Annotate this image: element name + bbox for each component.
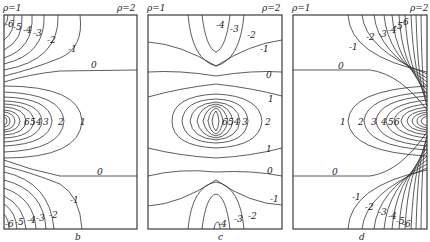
contour-label: 1	[266, 144, 272, 154]
contour-label: -3	[378, 207, 387, 217]
contour-label: 0	[338, 61, 344, 71]
contour-label: 2	[357, 117, 364, 127]
contour-label: -1	[349, 42, 358, 52]
panel-c-rho-left: ρ=1	[146, 3, 166, 13]
contour-label: -1	[270, 194, 279, 204]
panel-b: ρ=1 ρ=2 -6 -5 -4 -	[2, 3, 137, 242]
contour-label: 2	[57, 117, 64, 127]
contour-label: -4	[218, 219, 227, 229]
contour-label: -4	[216, 20, 225, 30]
contour-label: 1	[340, 117, 346, 127]
contour-label: -1	[352, 192, 361, 202]
contour-label: 0	[266, 70, 272, 80]
contour-label: 0	[97, 167, 103, 177]
contour-label: -3	[230, 24, 239, 34]
contour-label: 1	[268, 94, 274, 104]
contour-label: -6	[5, 219, 14, 229]
contour-label: -1	[68, 44, 77, 54]
contour-label: -2	[247, 30, 256, 40]
contour-label: -4	[27, 215, 36, 225]
contour-label: -2	[366, 32, 375, 42]
contour-label: -1	[260, 44, 269, 54]
contour-label: 1	[80, 117, 86, 127]
contour-label: -3	[378, 29, 387, 39]
contour-label: 0	[332, 167, 338, 177]
panel-d: ρ=1 ρ=2	[291, 3, 429, 242]
contour-label: -2	[49, 210, 58, 220]
contour-label: -6	[402, 219, 411, 229]
contour-label: -2	[47, 35, 56, 45]
panel-d-rho-right: ρ=2	[409, 3, 429, 13]
contour-label: -4	[23, 25, 32, 35]
contour-label: -2	[248, 211, 257, 221]
contour-label: 0	[91, 60, 97, 70]
contour-label: -3	[234, 214, 243, 224]
contour-label: -1	[70, 195, 79, 205]
contour-label: 4	[35, 117, 42, 127]
contour-label: -6	[400, 17, 409, 27]
contour-label: 0	[267, 166, 273, 176]
panel-d-rho-left: ρ=1	[291, 3, 311, 13]
contour-label: -3	[36, 213, 45, 223]
contour-label: -3	[33, 28, 42, 38]
panel-b-rho-right: ρ=2	[116, 3, 136, 13]
panel-c: ρ=1 ρ=2 -4 -3 -2 -1 0 1 6 5	[146, 3, 282, 242]
contour-label: 4	[233, 117, 240, 127]
contour-label: 3	[43, 117, 49, 127]
contour-label: 6	[394, 117, 400, 127]
panel-c-caption: c	[218, 232, 223, 242]
contour-label: -5	[15, 217, 24, 227]
panel-c-rho-right: ρ=2	[261, 3, 281, 13]
panel-d-caption: d	[359, 232, 365, 242]
contour-label: 3	[242, 117, 248, 127]
contour-label: 2	[264, 117, 271, 127]
contour-figure: ρ=1 ρ=2 -6 -5 -4 -	[0, 0, 430, 242]
panel-b-rho-left: ρ=1	[2, 3, 22, 13]
contour-label: 3	[371, 117, 377, 127]
contour-label: -2	[365, 202, 374, 212]
panel-b-caption: b	[75, 232, 81, 242]
contour-label: -5	[13, 22, 22, 32]
contour-label: 4	[380, 117, 387, 127]
